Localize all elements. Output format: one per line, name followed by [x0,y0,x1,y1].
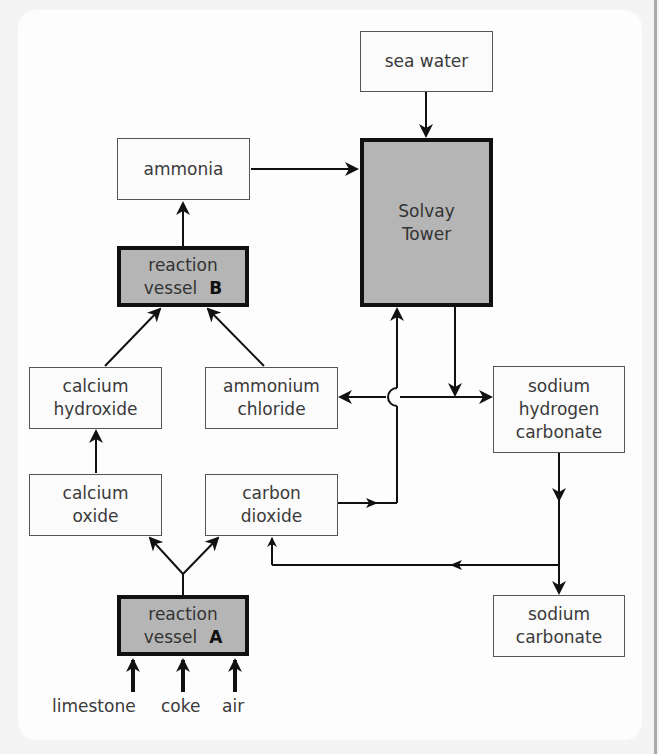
node-label: Solvay [398,200,454,223]
node-label: vessel [144,627,197,647]
node-reaction-vessel-b: reaction vesselB [117,246,249,307]
node-sodium-hydrogen-carbonate: sodium hydrogen carbonate [493,366,625,453]
node-label: Tower [402,223,451,246]
node-label: sodium [528,375,590,398]
node-label: reaction [148,603,217,626]
node-label-row: vesselB [144,277,222,300]
node-carbon-dioxide: carbon dioxide [205,474,338,536]
node-sodium-carbonate: sodium carbonate [493,595,625,657]
node-calcium-oxide: calcium oxide [29,474,162,536]
input-label-limestone: limestone [52,696,136,716]
node-label: hydroxide [53,398,137,421]
node-label-row: vesselA [144,626,223,649]
node-label: carbonate [516,626,602,649]
node-label: reaction [148,254,217,277]
node-ammonium-chloride: ammonium chloride [205,367,338,429]
node-reaction-vessel-a: reaction vesselA [117,595,249,656]
node-label: sodium [528,603,590,626]
line-hop-arc [388,388,397,406]
input-label-coke: coke [161,696,200,716]
node-ammonia: ammonia [117,138,250,200]
node-label: vessel [144,278,197,298]
arrow-to-co2 [183,538,218,574]
node-label: carbon [242,482,301,505]
arrow-to-cao [150,538,183,574]
vessel-tag: A [209,627,222,647]
node-sea-water: sea water [360,31,493,92]
node-label: chloride [237,398,305,421]
node-label: ammonium [223,375,320,398]
node-solvay-tower: Solvay Tower [360,138,493,307]
node-label: calcium [63,375,129,398]
node-calcium-hydroxide: calcium hydroxide [29,367,162,429]
node-label: dioxide [241,505,302,528]
arrow-nh4cl-to-vesselb [208,309,264,366]
vessel-tag: B [209,278,222,298]
node-label: sea water [385,50,469,73]
node-label: calcium [63,482,129,505]
arrow-caoh-to-vesselb [105,309,160,366]
node-label: carbonate [516,421,602,444]
node-label: ammonia [144,158,224,181]
node-label: hydrogen [519,398,600,421]
input-label-air: air [222,696,244,716]
node-label: oxide [73,505,119,528]
